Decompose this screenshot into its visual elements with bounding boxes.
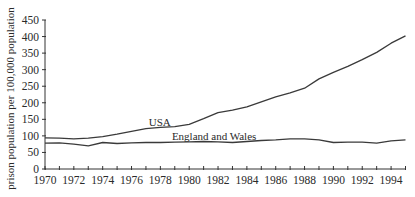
x-tick-label: 1972 [62, 174, 85, 186]
x-tick-label: 1992 [351, 174, 374, 186]
x-tick-label: 1986 [264, 174, 287, 186]
y-tick-label: 300 [22, 64, 40, 76]
y-tick-label: 450 [22, 14, 40, 26]
x-tick-label: 1976 [120, 174, 143, 186]
x-tick-label: 1978 [149, 174, 172, 186]
x-axis: 1970197219741976197819801982198419861988… [34, 166, 406, 186]
y-tick-label: 200 [22, 97, 40, 109]
x-tick-label: 1970 [34, 174, 57, 186]
x-tick-label: 1988 [293, 174, 316, 186]
x-tick-label: 1974 [91, 174, 114, 186]
x-tick-label: 1982 [207, 174, 230, 186]
series-label: USA [149, 116, 171, 128]
y-tick-label: 150 [22, 113, 40, 125]
series-line-usa [45, 36, 406, 139]
y-tick-label: 400 [22, 31, 40, 43]
y-axis-label: prison population per 100,000 population [4, 7, 16, 190]
y-axis: 050100150200250300350400450 [22, 14, 46, 175]
y-tick-label: 100 [22, 130, 40, 142]
prison-population-chart: 050100150200250300350400450 197019721974… [0, 0, 415, 197]
x-tick-label: 1990 [322, 174, 345, 186]
series-labels: USAEngland and Wales [149, 116, 257, 142]
x-tick-label: 1980 [178, 174, 201, 186]
y-tick-label: 50 [28, 146, 40, 158]
series-label: England and Wales [172, 130, 256, 142]
y-tick-label: 350 [22, 47, 40, 59]
x-tick-label: 1994 [380, 174, 403, 186]
y-tick-label: 250 [22, 80, 40, 92]
x-tick-label: 1984 [235, 174, 258, 186]
